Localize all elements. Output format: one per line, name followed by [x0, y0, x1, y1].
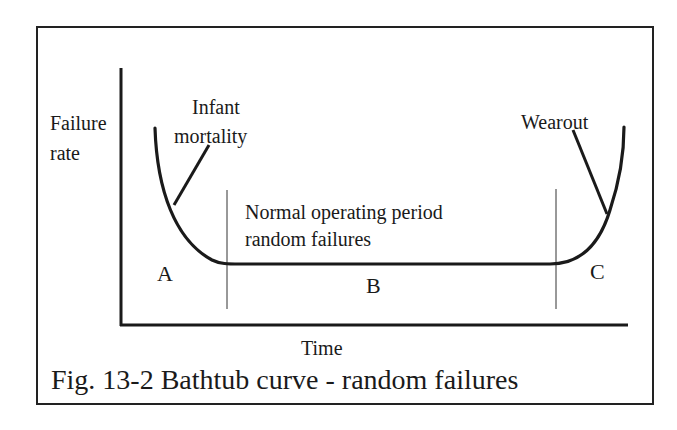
- infant-mortality-label-line2: mortality: [174, 126, 247, 146]
- region-c-label: C: [590, 261, 605, 283]
- normal-period-label-line1: Normal operating period: [245, 202, 443, 222]
- wearout-pointer: [573, 130, 607, 214]
- normal-period-label-line2: random failures: [245, 229, 371, 249]
- y-axis-label-line1: Failure: [50, 113, 107, 133]
- region-a-label: A: [157, 263, 173, 285]
- infant-mortality-pointer: [174, 145, 209, 205]
- infant-mortality-label-line1: Infant: [192, 97, 240, 117]
- figure-caption: Fig. 13-2 Bathtub curve - random failure…: [51, 366, 518, 394]
- x-axis-label: Time: [301, 338, 343, 358]
- bathtub-curve: [155, 127, 624, 264]
- wearout-label: Wearout: [521, 112, 588, 132]
- region-b-label: B: [366, 275, 381, 297]
- y-axis-label-line2: rate: [50, 143, 80, 163]
